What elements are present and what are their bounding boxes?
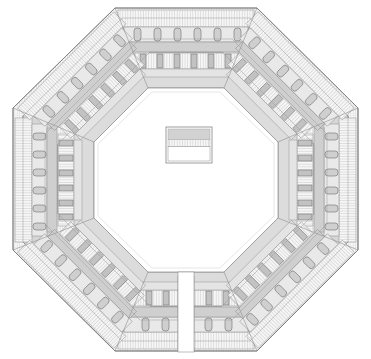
octagonal-plan-drawing xyxy=(0,0,371,359)
central-pavilion-open-band xyxy=(168,147,210,161)
central-courtyard xyxy=(94,88,278,272)
entrance-gap-overlay[interactable] xyxy=(178,272,194,352)
central-pavilion-roof-band xyxy=(168,129,210,140)
central-pavilion-hatch-band xyxy=(168,140,210,147)
central-pavilion[interactable] xyxy=(166,127,212,163)
east-wing[interactable] xyxy=(289,118,356,242)
floor-plan-canvas xyxy=(0,0,371,359)
